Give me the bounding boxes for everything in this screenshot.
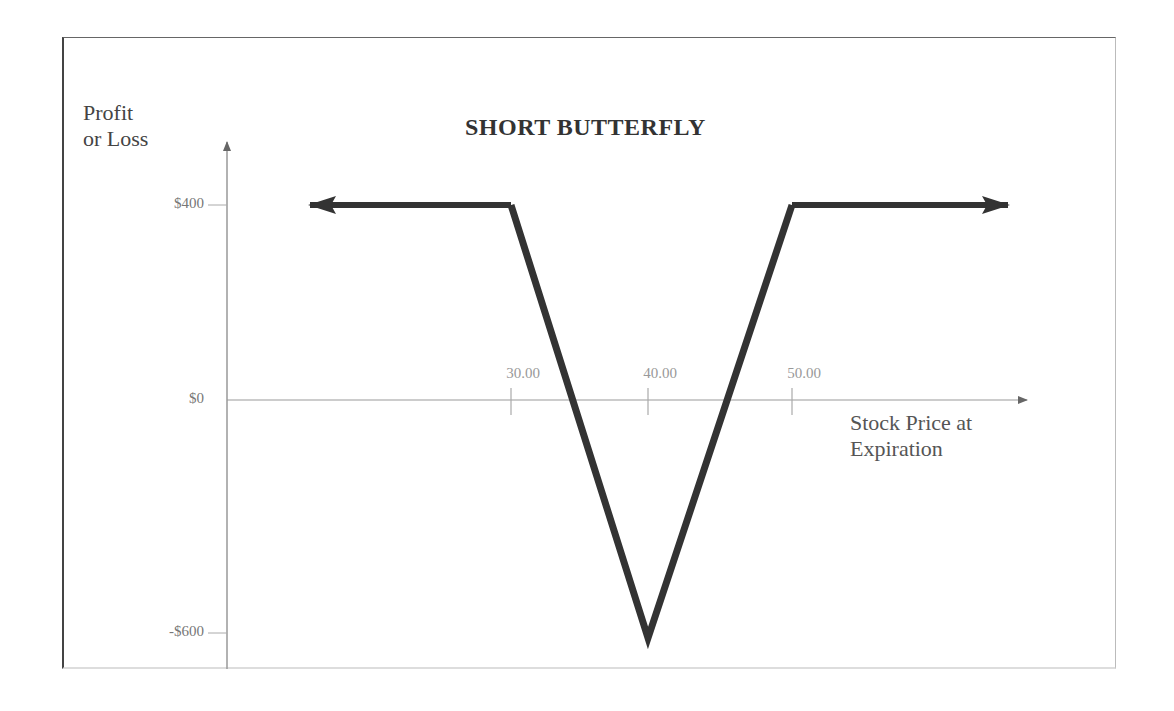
chart-title: SHORT BUTTERFLY [465,114,706,141]
y-axis [208,142,227,669]
payoff-chart [0,0,1174,711]
y-tick-neg600: -$600 [124,623,204,640]
y-tick-0: $0 [124,390,204,407]
y-tick-400: $400 [124,195,204,212]
x-axis-label: Stock Price at Expiration [850,410,972,462]
y-axis-label-line2: or Loss [83,126,148,152]
x-tick-30: 30.00 [493,365,553,382]
x-tick-40: 40.00 [630,365,690,382]
x-axis-label-line1: Stock Price at [850,410,972,436]
y-axis-label: Profit or Loss [83,100,148,152]
x-axis-label-line2: Expiration [850,436,972,462]
y-axis-label-line1: Profit [83,100,148,126]
x-tick-50: 50.00 [774,365,834,382]
